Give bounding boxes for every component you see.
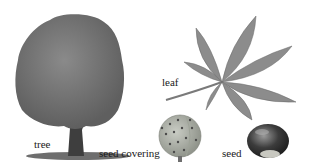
label-seed-covering: seed covering <box>99 148 160 159</box>
label-seed: seed <box>222 148 242 159</box>
seed-hilum <box>260 150 280 158</box>
leaf-illustration <box>166 16 296 120</box>
seed-highlight <box>255 129 269 135</box>
husk-stalk <box>178 156 182 162</box>
seed-illustration <box>247 124 289 158</box>
seed-covering-illustration <box>159 115 201 162</box>
tree-illustration <box>15 14 130 160</box>
tree-canopy <box>15 14 124 129</box>
label-leaf: leaf <box>162 77 178 88</box>
label-tree: tree <box>34 139 50 150</box>
